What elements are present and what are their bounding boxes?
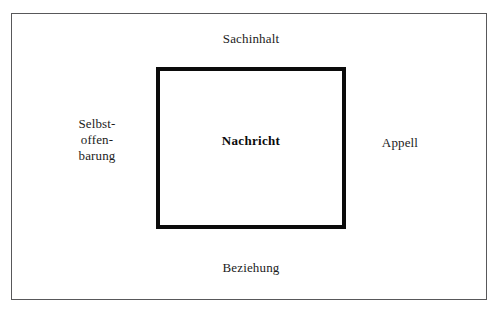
label-appell: Appell bbox=[352, 135, 448, 151]
label-beziehung: Beziehung bbox=[0, 260, 502, 276]
label-nachricht: Nachricht bbox=[156, 133, 346, 149]
label-selbstoffenbarung-line-1: Selbst- bbox=[78, 116, 115, 131]
diagram-canvas: Sachinhalt Selbst-offen-barung Nachricht… bbox=[0, 0, 502, 312]
label-selbstoffenbarung-line-2: offen- bbox=[81, 132, 113, 147]
label-selbstoffenbarung-line-3: barung bbox=[79, 148, 116, 163]
label-selbstoffenbarung: Selbst-offen-barung bbox=[55, 116, 139, 164]
label-sachinhalt: Sachinhalt bbox=[0, 31, 502, 47]
